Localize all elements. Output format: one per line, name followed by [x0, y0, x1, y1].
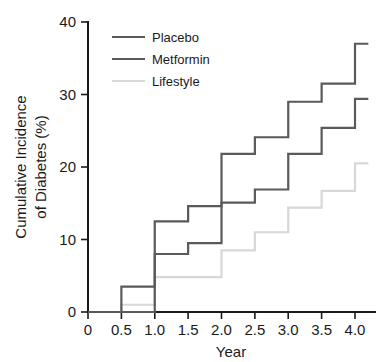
x-tick-label-3-0: 3.0 [278, 321, 299, 338]
series-line-placebo [88, 44, 368, 312]
y-tick-label-10: 10 [59, 231, 76, 248]
series-line-metformin [88, 99, 368, 312]
chart-legend: Placebo Metformin Lifestyle [112, 30, 210, 89]
axes-group [88, 22, 375, 312]
cumulative-incidence-step-chart: 0 10 20 30 40 0 0.5 1.0 1.5 2.0 2.5 3.0 [0, 0, 391, 362]
x-axis-title: Year [216, 343, 246, 360]
y-tick-label-20: 20 [59, 158, 76, 175]
legend-label-placebo: Placebo [152, 30, 199, 45]
x-tick-label-0-5: 0.5 [111, 321, 132, 338]
legend-label-metformin: Metformin [152, 52, 210, 67]
x-tick-label-2-5: 2.5 [244, 321, 265, 338]
x-tick-label-0: 0 [84, 321, 92, 338]
y-axis-title-line1: Cumulative Incidence [12, 95, 29, 238]
x-tick-label-4-0: 4.0 [345, 321, 366, 338]
chart-figure: 0 10 20 30 40 0 0.5 1.0 1.5 2.0 2.5 3.0 [0, 0, 391, 362]
x-tick-label-2-0: 2.0 [211, 321, 232, 338]
x-tick-label-3-5: 3.5 [311, 321, 332, 338]
series-group [88, 44, 368, 312]
x-tick-labels: 0 0.5 1.0 1.5 2.0 2.5 3.0 3.5 4.0 [84, 321, 366, 338]
y-tick-label-30: 30 [59, 86, 76, 103]
legend-label-lifestyle: Lifestyle [152, 74, 200, 89]
y-tick-label-0: 0 [68, 303, 76, 320]
y-tick-marks [81, 22, 88, 312]
x-tick-label-1-0: 1.0 [144, 321, 165, 338]
x-tick-label-1-5: 1.5 [178, 321, 199, 338]
series-line-lifestyle [88, 163, 368, 312]
y-tick-labels: 0 10 20 30 40 [59, 13, 76, 320]
y-tick-label-40: 40 [59, 13, 76, 30]
y-axis-title-line2: of Diabetes (%) [32, 115, 49, 218]
